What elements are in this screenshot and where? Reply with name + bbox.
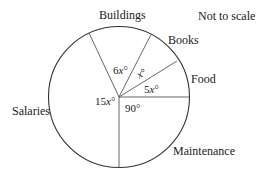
- angle-salaries-deg: °: [111, 95, 115, 107]
- angle-maintenance: 90°: [125, 103, 140, 114]
- angle-salaries-coef: 15: [95, 95, 106, 107]
- label-buildings: Buildings: [99, 9, 146, 21]
- label-food: Food: [191, 73, 216, 85]
- angle-food: 5x°: [144, 84, 159, 95]
- label-maintenance: Maintenance: [173, 145, 235, 157]
- angle-buildings-deg: °: [123, 64, 127, 76]
- angle-salaries: 15x°: [95, 96, 115, 107]
- angle-food-deg: °: [154, 83, 158, 95]
- label-books: Books: [168, 34, 199, 46]
- not-to-scale-note: Not to scale: [198, 10, 255, 22]
- angle-buildings: 6x°: [113, 65, 128, 76]
- angle-maintenance-value: 90°: [125, 102, 140, 114]
- label-salaries: Salaries: [12, 105, 50, 117]
